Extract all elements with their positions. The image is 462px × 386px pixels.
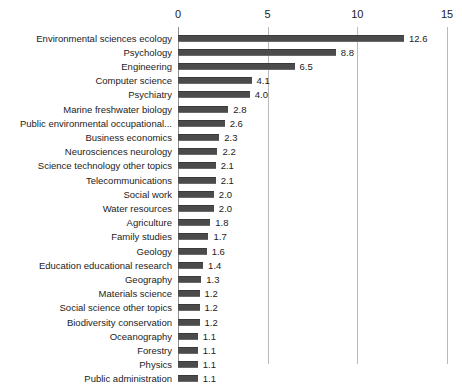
bar-value-label: 1.2 bbox=[205, 288, 218, 299]
bar-row: Biodiversity conservation1.2 bbox=[0, 315, 462, 329]
bar-value-label: 4.1 bbox=[257, 75, 270, 86]
bar-row: Neurosciences neurology2.2 bbox=[0, 145, 462, 159]
bar-row: Computer science4.1 bbox=[0, 74, 462, 88]
bar bbox=[178, 35, 404, 42]
bar bbox=[178, 177, 216, 184]
category-label: Neurosciences neurology bbox=[0, 146, 172, 157]
bar-and-value: 2.3 bbox=[178, 130, 237, 144]
category-label: Psychiatry bbox=[0, 89, 172, 100]
bar-and-value: 1.8 bbox=[178, 216, 228, 230]
category-label: Oceanography bbox=[0, 331, 172, 342]
bar-and-value: 2.8 bbox=[178, 102, 246, 116]
category-label: Telecommunications bbox=[0, 175, 172, 186]
bar-value-label: 4.0 bbox=[255, 89, 268, 100]
bar bbox=[178, 262, 203, 269]
bar-value-label: 1.8 bbox=[215, 217, 228, 228]
bar bbox=[178, 91, 250, 98]
bar-and-value: 1.2 bbox=[178, 315, 218, 329]
category-label: Marine freshwater biology bbox=[0, 104, 172, 115]
category-label: Family studies bbox=[0, 231, 172, 242]
bar-row: Science technology other topics2.1 bbox=[0, 159, 462, 173]
bar bbox=[178, 290, 200, 297]
bar-and-value: 2.0 bbox=[178, 187, 232, 201]
category-label: Water resources bbox=[0, 203, 172, 214]
x-axis-tick-10: 10 bbox=[351, 8, 363, 21]
bar-row: Public administration1.1 bbox=[0, 372, 462, 386]
bar bbox=[178, 106, 228, 113]
bar-and-value: 12.6 bbox=[178, 31, 427, 45]
bar-and-value: 2.6 bbox=[178, 116, 243, 130]
category-label: Psychology bbox=[0, 47, 172, 58]
bar-and-value: 2.1 bbox=[178, 159, 234, 173]
category-label: Computer science bbox=[0, 75, 172, 86]
bar bbox=[178, 375, 198, 382]
category-label: Physics bbox=[0, 359, 172, 370]
bar bbox=[178, 191, 214, 198]
bar-value-label: 1.1 bbox=[203, 359, 216, 370]
bar-and-value: 6.5 bbox=[178, 59, 313, 73]
bar bbox=[178, 347, 198, 354]
x-axis-tick-0: 0 bbox=[175, 8, 181, 21]
bar-value-label: 2.1 bbox=[221, 175, 234, 186]
bar-value-label: 2.3 bbox=[224, 132, 237, 143]
category-label: Biodiversity conservation bbox=[0, 317, 172, 328]
category-label: Public administration bbox=[0, 373, 172, 384]
bar bbox=[178, 361, 198, 368]
x-axis-tick-15: 15 bbox=[441, 8, 453, 21]
bar-value-label: 1.7 bbox=[213, 231, 226, 242]
bar-and-value: 1.2 bbox=[178, 287, 218, 301]
bar-row: Telecommunications2.1 bbox=[0, 173, 462, 187]
bar-row: Forestry1.1 bbox=[0, 343, 462, 357]
bar bbox=[178, 63, 295, 70]
bar-value-label: 8.8 bbox=[341, 47, 354, 58]
bar-row: Education educational research1.4 bbox=[0, 258, 462, 272]
bar-and-value: 1.6 bbox=[178, 244, 225, 258]
bar-row: Social science other topics1.2 bbox=[0, 301, 462, 315]
bar-and-value: 4.1 bbox=[178, 74, 270, 88]
category-label: Materials science bbox=[0, 288, 172, 299]
bar-row: Water resources2.0 bbox=[0, 201, 462, 215]
bar bbox=[178, 304, 200, 311]
bar-and-value: 1.3 bbox=[178, 272, 220, 286]
bar-value-label: 2.1 bbox=[221, 160, 234, 171]
bar-and-value: 1.2 bbox=[178, 301, 218, 315]
bar-row: Marine freshwater biology2.8 bbox=[0, 102, 462, 116]
category-label: Engineering bbox=[0, 61, 172, 72]
bar bbox=[178, 77, 252, 84]
bar-value-label: 1.1 bbox=[203, 345, 216, 356]
x-axis-tick-5: 5 bbox=[265, 8, 271, 21]
bar-and-value: 1.1 bbox=[178, 372, 216, 386]
bar-and-value: 1.7 bbox=[178, 230, 227, 244]
category-label: Social work bbox=[0, 189, 172, 200]
bar bbox=[178, 205, 214, 212]
bar bbox=[178, 219, 210, 226]
bar bbox=[178, 134, 219, 141]
bar-row: Public environmental occupational...2.6 bbox=[0, 116, 462, 130]
category-label: Geography bbox=[0, 274, 172, 285]
bar-and-value: 2.2 bbox=[178, 145, 236, 159]
bar-and-value: 2.0 bbox=[178, 201, 232, 215]
bar-row: Agriculture1.8 bbox=[0, 216, 462, 230]
bar-and-value: 4.0 bbox=[178, 88, 268, 102]
bar-row: Psychiatry4.0 bbox=[0, 88, 462, 102]
bar bbox=[178, 162, 216, 169]
bar-and-value: 8.8 bbox=[178, 45, 354, 59]
category-label: Science technology other topics bbox=[0, 160, 172, 171]
category-label: Environmental sciences ecology bbox=[0, 33, 172, 44]
bar-rows: Environmental sciences ecology12.6Psycho… bbox=[0, 27, 462, 364]
bar-row: Geology1.6 bbox=[0, 244, 462, 258]
bar-row: Oceanography1.1 bbox=[0, 329, 462, 343]
bar-row: Psychology8.8 bbox=[0, 45, 462, 59]
bar-and-value: 1.1 bbox=[178, 329, 216, 343]
bar bbox=[178, 333, 198, 340]
category-label: Education educational research bbox=[0, 260, 172, 271]
category-label: Public environmental occupational... bbox=[0, 118, 172, 129]
bar bbox=[178, 276, 201, 283]
bar-value-label: 1.4 bbox=[208, 260, 221, 271]
bar-row: Business economics2.3 bbox=[0, 130, 462, 144]
x-axis-tick-labels: 051015 bbox=[0, 8, 462, 24]
bar-value-label: 2.0 bbox=[219, 189, 232, 200]
category-label: Agriculture bbox=[0, 217, 172, 228]
bar-value-label: 2.8 bbox=[233, 104, 246, 115]
bar-row: Environmental sciences ecology12.6 bbox=[0, 31, 462, 45]
